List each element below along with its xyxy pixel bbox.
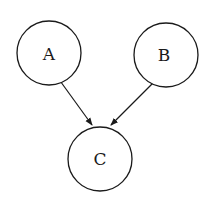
node-c: C	[68, 127, 132, 191]
diagram-canvas: A B C	[0, 0, 209, 201]
edge-b-to-c	[111, 80, 156, 125]
node-a: A	[17, 21, 81, 85]
node-c-label: C	[93, 149, 106, 169]
edge-a-to-c	[58, 78, 92, 125]
node-a-label: A	[42, 44, 56, 64]
node-b-label: B	[158, 45, 171, 65]
node-b: B	[134, 23, 198, 87]
